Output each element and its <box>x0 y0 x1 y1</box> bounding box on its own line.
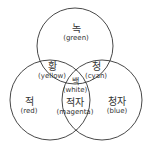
white-en: (white) <box>63 87 88 94</box>
region-white-label: 백 (white) <box>63 78 88 94</box>
yellow-ko: 황 <box>38 62 66 72</box>
region-blue-label: 청자 (blue) <box>107 97 128 115</box>
cyan-en: (cyan) <box>85 73 107 80</box>
blue-ko: 청자 <box>107 97 128 107</box>
region-cyan-label: 청 (cyan) <box>85 62 107 80</box>
region-magenta-label: 적자 (magenta) <box>57 98 94 116</box>
red-en: (red) <box>21 108 38 115</box>
green-en: (green) <box>63 35 89 42</box>
cyan-ko: 청 <box>85 62 107 72</box>
green-ko: 녹 <box>63 24 89 34</box>
magenta-en: (magenta) <box>57 109 94 116</box>
region-red-label: 적 (red) <box>21 97 38 115</box>
magenta-ko: 적자 <box>57 98 94 108</box>
white-ko: 백 <box>63 78 88 86</box>
red-ko: 적 <box>21 97 38 107</box>
blue-en: (blue) <box>107 108 128 115</box>
region-green-label: 녹 (green) <box>63 24 89 42</box>
